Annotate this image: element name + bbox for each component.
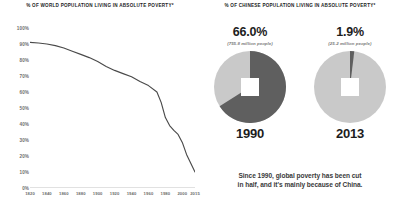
donut-block-1990: 66.0% (755.8 million people) 1990 xyxy=(200,26,300,141)
y-tick-label: 30% xyxy=(20,138,30,143)
world-poverty-panel: % OF WORLD POPULATION LIVING IN ABSOLUTE… xyxy=(0,0,200,213)
x-axis-labels: 1820184018601880190019201940196019802000… xyxy=(30,191,195,201)
caption-line-1: Since 1990, global poverty has been cut xyxy=(200,172,400,181)
x-tick-label: 2015 xyxy=(190,191,200,196)
summary-caption: Since 1990, global poverty has been cut … xyxy=(200,172,400,189)
y-tick-label: 10% xyxy=(20,170,30,175)
caption-line-2: in half, and it's mainly because of Chin… xyxy=(200,181,400,190)
infographic-root: % OF WORLD POPULATION LIVING IN ABSOLUTE… xyxy=(0,0,400,213)
donut-percent-1990: 66.0% xyxy=(233,26,267,39)
donut-people-1990: (755.8 million people) xyxy=(227,41,273,46)
poverty-trend-line xyxy=(30,42,195,172)
y-tick-label: 90% xyxy=(20,42,30,47)
donut-graphic-2013 xyxy=(312,49,388,125)
donut-center-square-2013 xyxy=(341,78,359,96)
donut-svg-2013 xyxy=(312,49,388,125)
donut-percent-2013: 1.9% xyxy=(336,26,364,39)
y-tick-label: 70% xyxy=(20,74,30,79)
x-tick-label: 1960 xyxy=(144,191,154,196)
x-tick-label: 1980 xyxy=(161,191,171,196)
china-poverty-panel: % OF CHINESE POPULATION LIVING IN ABSOLU… xyxy=(200,0,400,213)
y-tick-label: 20% xyxy=(20,154,30,159)
left-chart-title: % OF WORLD POPULATION LIVING IN ABSOLUTE… xyxy=(0,3,200,8)
x-tick-label: 1940 xyxy=(127,191,137,196)
x-tick-label: 1860 xyxy=(59,191,69,196)
y-tick-label: 40% xyxy=(20,122,30,127)
y-tick-label: 60% xyxy=(20,90,30,95)
x-tick-label: 1840 xyxy=(42,191,52,196)
donut-center-square-1990 xyxy=(241,78,259,96)
y-tick-label: 0% xyxy=(22,186,29,191)
y-tick-label: 100% xyxy=(17,26,29,31)
donut-chart-group: 66.0% (755.8 million people) 1990 1.9% (… xyxy=(200,26,400,141)
x-tick-label: 2000 xyxy=(177,191,187,196)
x-tick-label: 1820 xyxy=(25,191,35,196)
donut-svg-1990 xyxy=(212,49,288,125)
donut-block-2013: 1.9% (25.2 million people) 2013 xyxy=(300,26,400,141)
right-chart-title: % OF CHINESE POPULATION LIVING IN ABSOLU… xyxy=(200,3,400,8)
donut-graphic-1990 xyxy=(212,49,288,125)
x-tick-label: 1920 xyxy=(110,191,120,196)
donut-year-1990: 1990 xyxy=(236,126,264,141)
line-chart-svg xyxy=(30,28,195,188)
y-axis-labels: 0%10%20%30%40%50%60%70%80%90%100% xyxy=(8,28,29,188)
x-tick-label: 1880 xyxy=(76,191,86,196)
y-tick-label: 80% xyxy=(20,58,30,63)
world-poverty-line-chart xyxy=(30,28,195,188)
donut-people-2013: (25.2 million people) xyxy=(328,41,371,46)
donut-year-2013: 2013 xyxy=(336,126,364,141)
x-tick-label: 1900 xyxy=(93,191,103,196)
y-tick-label: 50% xyxy=(20,106,30,111)
